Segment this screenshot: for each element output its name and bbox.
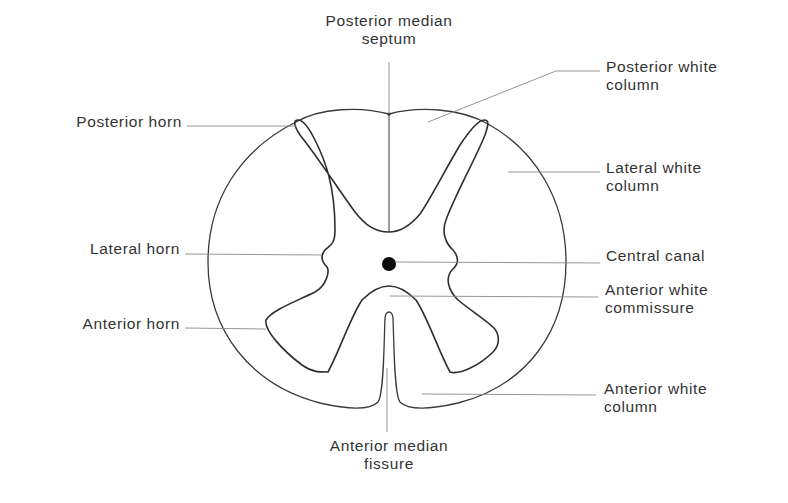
label-lateral-horn: Lateral horn — [40, 240, 180, 258]
label-line: column — [606, 177, 702, 195]
leader-lateral-horn — [185, 254, 322, 255]
leader-central-canal — [396, 262, 600, 263]
label-posterior-median-septum: Posterior median septum — [326, 12, 453, 48]
leader-posterior-white-column — [428, 71, 600, 122]
label-anterior-median-fissure: Anterior median fissure — [330, 437, 448, 473]
label-line: septum — [326, 30, 453, 48]
label-line: Lateral white — [606, 159, 702, 177]
label-line: column — [606, 76, 718, 94]
label-posterior-horn: Posterior horn — [40, 113, 182, 131]
leader-anterior-white-column — [422, 394, 596, 395]
leader-anterior-horn — [185, 328, 266, 329]
label-anterior-white-column: Anterior white column — [604, 380, 707, 416]
central-canal-dot — [382, 257, 396, 271]
label-posterior-white-column: Posterior white column — [606, 58, 718, 94]
label-anterior-white-commissure: Anterior white commissure — [605, 281, 708, 317]
leader-anterior-white-commissure — [390, 296, 598, 297]
label-line: Posterior median — [326, 12, 453, 30]
label-line: fissure — [330, 455, 448, 473]
label-line: Anterior white — [605, 281, 708, 299]
label-line: Lateral horn — [40, 240, 180, 258]
label-line: column — [604, 398, 707, 416]
label-line: Central canal — [606, 247, 705, 265]
label-anterior-horn: Anterior horn — [30, 315, 180, 333]
label-line: Anterior horn — [30, 315, 180, 333]
grey-matter-outline — [266, 120, 499, 373]
label-line: Anterior median — [330, 437, 448, 455]
label-line: Posterior horn — [40, 113, 182, 131]
label-line: Anterior white — [604, 380, 707, 398]
label-central-canal: Central canal — [606, 247, 705, 265]
label-line: Posterior white — [606, 58, 718, 76]
label-lateral-white-column: Lateral white column — [606, 159, 702, 195]
label-line: commissure — [605, 299, 708, 317]
